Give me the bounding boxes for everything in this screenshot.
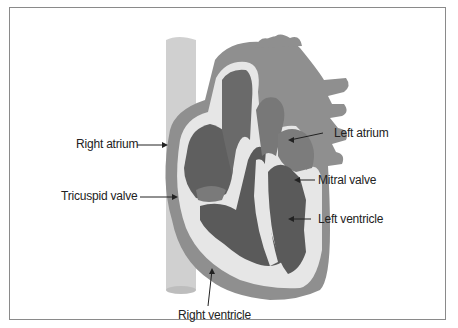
label-mitral-valve: Mitral valve (318, 173, 376, 187)
label-right-atrium: Right atrium (76, 137, 138, 151)
label-tricuspid-valve: Tricuspid valve (61, 189, 138, 203)
label-right-ventricle: Right ventricle (178, 308, 251, 322)
label-left-atrium: Left atrium (334, 126, 389, 140)
heart-diagram (0, 0, 458, 328)
label-left-ventricle: Left ventricle (318, 212, 383, 226)
